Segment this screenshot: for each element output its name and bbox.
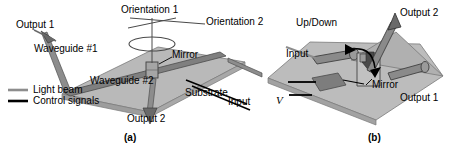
output1-waveguide-cap-b <box>421 62 429 73</box>
label-input-b: Input <box>286 49 308 59</box>
label-substrate-a: Substrate <box>185 88 228 98</box>
label-waveguide2-a: Waveguide #2 <box>90 76 154 86</box>
label-waveguide1-a: Waveguide #1 <box>34 44 98 54</box>
orientation2-line-a <box>130 18 205 24</box>
caption-panel-b: (b) <box>368 132 381 143</box>
label-mirror-b: Mirror <box>372 80 398 90</box>
label-output1-a: Output 1 <box>16 20 54 30</box>
label-orientation2-a: Orientation 2 <box>206 17 263 27</box>
figure-container: Output 1 Waveguide #1 Waveguide #2 Subst… <box>0 0 456 151</box>
label-mirror-a: Mirror <box>172 50 198 60</box>
label-orientation1-a: Orientation 1 <box>121 5 178 15</box>
label-input-a: Input <box>228 97 250 107</box>
label-voltage-b: V <box>276 94 283 106</box>
label-output2-a: Output 2 <box>127 114 165 124</box>
label-updown-b: Up/Down <box>296 18 337 28</box>
label-output2-b: Output 2 <box>400 8 438 18</box>
legend-label-light-beam: Light beam <box>33 85 82 95</box>
legend-label-control-signals: Control signals <box>33 96 99 106</box>
caption-panel-a: (a) <box>124 132 136 143</box>
label-output1-b: Output 1 <box>400 93 438 103</box>
